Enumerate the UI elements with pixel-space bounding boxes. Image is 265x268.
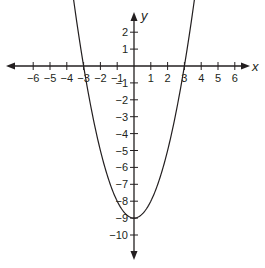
x-tick-label: 5 [215,72,221,84]
x-tick-label: −4 [61,72,74,84]
y-tick-label: −5 [115,145,128,157]
y-tick-label: −4 [115,128,128,140]
x-tick-label: 3 [181,72,187,84]
x-axis-ticks: −6−5−4−3−2−1123456 [27,62,238,84]
coordinate-plane: −6−5−4−3−2−1123456 21−1−2−3−4−5−6−7−8−9−… [0,0,265,268]
x-tick-label: 6 [232,72,238,84]
y-axis-down-arrow-icon [131,251,138,260]
x-tick-label: 1 [148,72,154,84]
y-tick-label: −8 [115,195,128,207]
y-tick-label: −9 [115,212,128,224]
y-tick-label: 1 [122,43,128,55]
y-axis-up-arrow-icon [131,12,138,21]
x-axis-label: x [251,59,259,74]
y-tick-label: −10 [109,229,128,241]
x-axis-left-arrow-icon [6,63,15,70]
axes [6,12,250,260]
y-tick-label: −6 [115,161,128,173]
x-axis-right-arrow-icon [241,63,250,70]
x-tick-label: −6 [27,72,40,84]
y-tick-label: −7 [115,178,128,190]
y-tick-label: −3 [115,111,128,123]
x-tick-label: −3 [77,72,90,84]
y-tick-label: −1 [115,77,128,89]
x-tick-label: 4 [198,72,204,84]
x-tick-label: −5 [44,72,57,84]
x-tick-label: −2 [94,72,107,84]
y-axis-label: y [140,8,149,23]
y-tick-label: 2 [122,26,128,38]
x-tick-label: 2 [165,72,171,84]
y-tick-label: −2 [115,94,128,106]
